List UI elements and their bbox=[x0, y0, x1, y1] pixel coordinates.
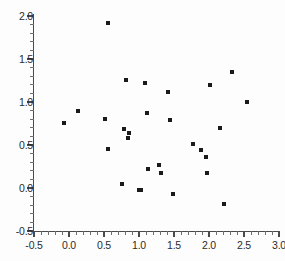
data-point bbox=[230, 70, 234, 74]
data-point bbox=[124, 78, 128, 82]
data-point bbox=[191, 142, 195, 146]
data-point bbox=[139, 188, 143, 192]
data-point bbox=[222, 202, 226, 206]
plot-area: -0.50.00.51.01.52.0-0.50.00.51.01.52.02.… bbox=[0, 0, 285, 261]
data-point bbox=[143, 81, 147, 85]
data-point bbox=[199, 148, 203, 152]
data-point bbox=[166, 90, 170, 94]
data-point bbox=[76, 109, 80, 113]
data-point bbox=[208, 83, 212, 87]
data-point bbox=[205, 171, 209, 175]
data-point bbox=[157, 163, 161, 167]
data-point bbox=[145, 111, 149, 115]
data-point bbox=[168, 118, 172, 122]
data-point bbox=[106, 147, 110, 151]
scatter-plot-figure: -0.50.00.51.01.52.0-0.50.00.51.01.52.02.… bbox=[0, 0, 285, 261]
data-point bbox=[103, 117, 107, 121]
data-point bbox=[159, 171, 163, 175]
data-point bbox=[126, 136, 130, 140]
data-point-layer bbox=[0, 0, 285, 261]
data-point bbox=[245, 100, 249, 104]
data-point bbox=[62, 121, 66, 125]
data-point bbox=[127, 131, 131, 135]
data-point bbox=[106, 21, 110, 25]
data-point bbox=[120, 182, 124, 186]
data-point bbox=[146, 167, 150, 171]
data-point bbox=[171, 192, 175, 196]
data-point bbox=[218, 126, 222, 130]
data-point bbox=[204, 155, 208, 159]
data-point bbox=[122, 127, 126, 131]
